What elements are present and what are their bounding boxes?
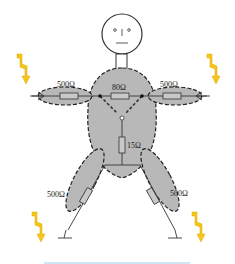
label-right-arm: 500Ω [160,80,178,89]
label-right-leg: 500Ω [170,189,188,198]
resistor-left-arm [60,93,78,99]
resistor-right-arm [163,93,181,99]
label-left-leg: 500Ω [47,190,65,199]
lightning-icon [17,54,30,84]
label-chest: 80Ω [112,83,126,92]
lightning-icon [207,54,220,84]
resistor-chest [111,93,129,99]
left-leg [59,144,111,216]
lightning-icon [192,212,205,242]
right-leg [134,144,186,216]
resistor-torso [119,137,125,153]
head [102,14,142,70]
label-torso: 15Ω [127,141,141,150]
body-resistance-diagram: 500Ω 80Ω 500Ω 15Ω 500Ω 500Ω [0,0,235,264]
lightning-icon [32,212,45,242]
label-left-arm: 500Ω [57,80,75,89]
